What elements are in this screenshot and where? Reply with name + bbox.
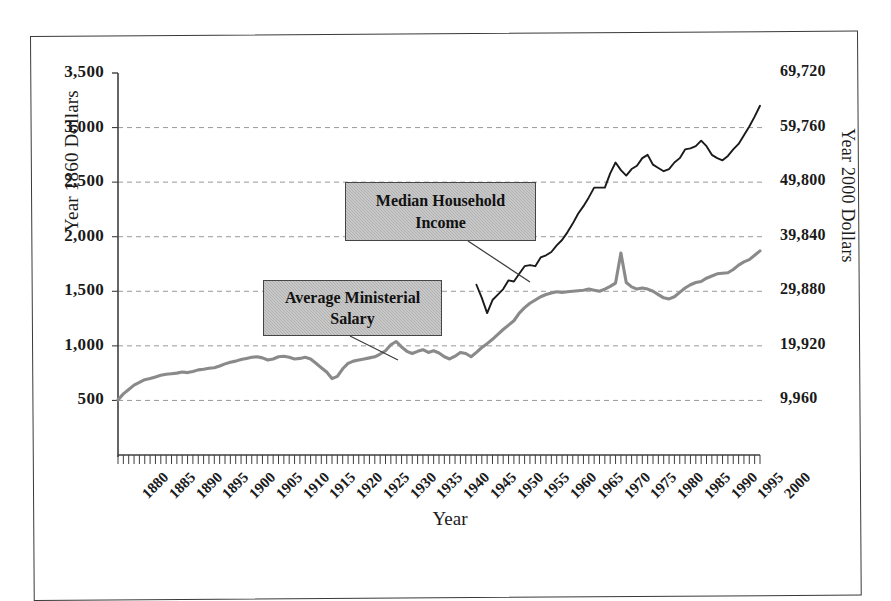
y-tick-left-3000: 3,000 — [26, 117, 104, 137]
y-tick-right-59760: 59,760 — [780, 117, 870, 135]
y-tick-left-500: 500 — [26, 389, 104, 409]
y-tick-right-19920: 19,920 — [780, 335, 870, 353]
y-tick-left-2500: 2,500 — [26, 171, 104, 191]
y-tick-right-69720: 69,720 — [780, 62, 870, 80]
y-tick-right-9960: 9,960 — [780, 389, 870, 407]
callout-median-household-income: Median Household Income — [345, 182, 536, 241]
y-tick-left-2000: 2,000 — [26, 226, 104, 246]
y-tick-left-1000: 1,000 — [26, 335, 104, 355]
y-tick-left-1500: 1,500 — [26, 280, 104, 300]
y-tick-right-39840: 39,840 — [780, 226, 870, 244]
x-axis-title: Year — [320, 508, 580, 530]
y-tick-right-49800: 49,800 — [780, 171, 870, 189]
callout-average-ministerial-salary: Average Ministerial Salary — [263, 280, 442, 336]
y-tick-right-29880: 29,880 — [780, 280, 870, 298]
y-tick-left-3500: 3,500 — [26, 62, 104, 82]
